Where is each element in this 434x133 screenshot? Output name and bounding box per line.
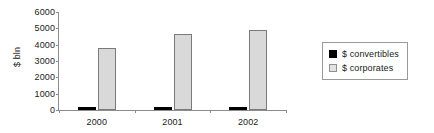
bar-chart: $ bln 0100020003000400050006000 20002001… — [0, 0, 434, 133]
x-axis-tick-label: 2002 — [238, 117, 258, 127]
x-axis-tick-label: 2000 — [87, 117, 107, 127]
bar-2000-convertibles — [78, 107, 96, 110]
x-axis-tick-mark — [135, 110, 136, 113]
y-axis-title: $ bln — [12, 27, 22, 87]
y-axis-tick-mark — [56, 45, 59, 46]
y-axis-tick-mark — [56, 12, 59, 13]
bar-2002-convertibles — [229, 107, 247, 110]
y-axis-tick-mark — [56, 28, 59, 29]
y-axis-tick-label: 4000 — [35, 40, 55, 50]
bar-2001-convertibles — [154, 107, 172, 110]
legend-item: $ corporates — [329, 61, 399, 75]
y-axis-tick-mark — [56, 94, 59, 95]
bar-2001-corporates — [174, 34, 192, 110]
legend-label: $ convertibles — [342, 49, 399, 59]
x-axis-tick-mark — [59, 110, 60, 113]
black-square-icon — [329, 50, 337, 58]
y-axis-tick-mark — [56, 77, 59, 78]
y-axis-tick-mark — [56, 61, 59, 62]
plot-area: 0100020003000400050006000 200020012002 — [58, 12, 286, 111]
gray-square-icon — [329, 64, 337, 72]
chart-legend: $ convertibles $ corporates — [322, 42, 408, 80]
y-axis-tick-label: 1000 — [35, 89, 55, 99]
legend-label: $ corporates — [342, 63, 393, 73]
bar-2000-corporates — [98, 48, 116, 110]
x-axis-tick-mark — [210, 110, 211, 113]
y-axis-tick-label: 2000 — [35, 72, 55, 82]
legend-item: $ convertibles — [329, 47, 399, 61]
x-axis-tick-label: 2001 — [162, 117, 182, 127]
x-axis-tick-mark — [286, 110, 287, 113]
y-axis-tick-label: 6000 — [35, 7, 55, 17]
y-axis-tick-label: 5000 — [35, 23, 55, 33]
bar-2002-corporates — [249, 30, 267, 110]
y-axis-tick-label: 3000 — [35, 56, 55, 66]
y-axis-tick-label: 0 — [50, 105, 55, 115]
